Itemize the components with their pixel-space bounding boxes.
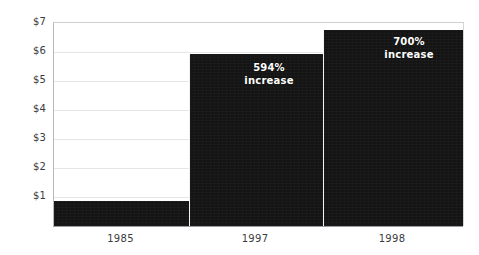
bar-annotation-1998-line2: increase <box>364 48 454 61</box>
y-tick-label-6: $6 <box>0 45 46 57</box>
bar-annotation-1997-line1: 594% <box>224 61 314 74</box>
x-tick-label-1997: 1997 <box>188 232 322 246</box>
x-tick-label-1998: 1998 <box>322 232 462 246</box>
y-tick-label-5: $5 <box>0 74 46 86</box>
y-tick-label-2: $2 <box>0 161 46 173</box>
bar-annotation-1997-line2: increase <box>224 74 314 87</box>
clipped-chart-title <box>0 0 479 9</box>
y-tick-label-4: $4 <box>0 103 46 115</box>
bar-annotation-1998: 700% increase <box>364 35 454 61</box>
y-tick-label-7: $7 <box>0 16 46 28</box>
y-tick-label-3: $3 <box>0 132 46 144</box>
bar-1985 <box>54 201 189 226</box>
bar-annotation-1998-line1: 700% <box>364 35 454 48</box>
x-axis-line <box>53 226 463 227</box>
y-tick-label-1: $1 <box>0 190 46 202</box>
plot-area: 594% increase 700% increase <box>53 22 464 226</box>
chart-figure: billions of U.S. dollars $7 $6 $5 $4 $3 … <box>0 0 479 255</box>
bar-annotation-1997: 594% increase <box>224 61 314 87</box>
x-tick-label-1985: 1985 <box>53 232 188 246</box>
